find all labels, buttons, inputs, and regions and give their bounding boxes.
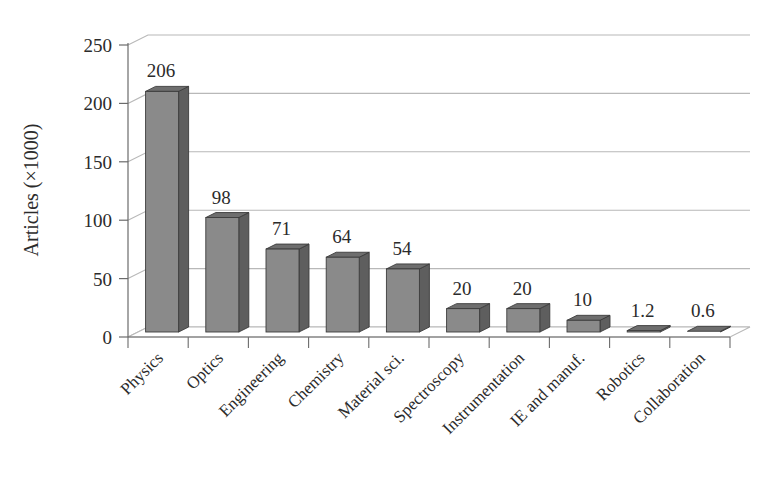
bar-front-face [326,257,359,332]
bar-chart: 050100150200250 206987164542020101.20.6 … [0,0,768,484]
y-tick-label-150: 150 [84,152,113,173]
gridline-200 [128,93,750,103]
bar-side-face [239,213,249,332]
bar-value-label: 0.6 [691,300,715,321]
bar [507,304,550,332]
bar-value-label: 54 [392,238,412,259]
bar-value-label: 98 [212,187,231,208]
bar-front-face [206,218,239,332]
category-label-group: Robotics [592,348,648,404]
bar-side-face [299,244,309,332]
bar-value-label: 20 [453,278,472,299]
bar-side-face [179,86,189,332]
category-labels: PhysicsOpticsEngineeringChemistryMateria… [117,348,709,438]
chart-canvas: 050100150200250 206987164542020101.20.6 … [0,0,768,484]
bar-value-label: 1.2 [631,300,655,321]
bar-front-face [507,309,540,332]
y-tick-label-250: 250 [84,35,113,56]
bar [386,264,429,332]
bar-front-face [266,249,299,332]
gridline-250 [128,35,750,45]
y-tick-label-100: 100 [84,210,113,231]
gridline-150 [128,152,750,162]
bar [326,252,369,332]
bar-front-face [627,331,660,332]
bar-value-label: 20 [513,278,532,299]
bar-value-label: 10 [573,289,592,310]
category-label: Robotics [592,348,648,404]
category-label-group: Chemistry [284,348,348,412]
y-tick-label-200: 200 [84,93,113,114]
bar-value-label: 71 [272,218,291,239]
bar-front-face [146,91,179,332]
category-label: Physics [117,348,167,398]
bar [206,213,249,332]
bar-value-label: 206 [147,60,176,81]
bar-front-face [386,269,419,332]
bar [146,86,189,332]
y-tick-label-50: 50 [93,269,112,290]
category-label-group: Optics [182,348,227,393]
y-tick-label-0: 0 [103,327,113,348]
y-axis-title: Articles (×1000) [20,124,43,257]
bar-side-face [419,264,429,332]
bar-front-face [447,309,480,332]
bar-value-label: 64 [332,226,352,247]
bars [146,86,731,332]
y-axis-title-group: Articles (×1000) [20,124,43,257]
category-label: Optics [182,348,227,393]
y-axis: 050100150200250 [84,35,129,348]
category-label-group: Engineering [215,348,288,421]
category-label-group: Physics [117,348,167,398]
bar-front-face [567,320,600,332]
category-label: Chemistry [284,348,348,412]
bar [266,244,309,332]
x-axis [128,337,730,348]
category-label: Engineering [215,348,288,421]
bar-side-face [359,252,369,332]
bar [447,304,490,332]
bar [567,315,610,332]
